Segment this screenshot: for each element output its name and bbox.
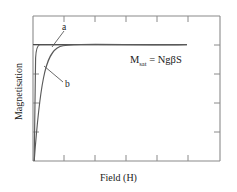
curve-label-b: b [65, 79, 70, 89]
saturation-formula-expression: = NgβS [147, 54, 182, 65]
leader-line-b [44, 66, 63, 82]
saturation-formula: Msat = NgβS [130, 54, 182, 65]
saturation-formula-subscript: sat [139, 60, 146, 67]
saturation-formula-symbol: M [130, 54, 139, 65]
plot-area [0, 0, 237, 192]
x-axis-title: Field (H) [0, 172, 237, 183]
curve-label-a: a [62, 22, 66, 32]
y-axis-title: Magnetisation [13, 30, 24, 154]
x-axis-top-ticks [64, 16, 188, 22]
x-axis-ticks [64, 155, 188, 161]
y-axis-right-ticks [214, 45, 220, 132]
axes-frame [33, 16, 220, 161]
magnetisation-vs-field-figure: a b Msat = NgβS Field (H) Magnetisation [0, 0, 237, 192]
